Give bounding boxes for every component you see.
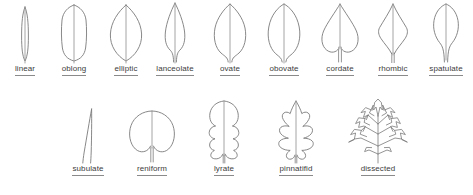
- leaf-item-lyrate: lyrate: [196, 100, 252, 176]
- leaf-item-ovate: ovate: [204, 3, 256, 76]
- leaf-label-oblong: oblong: [62, 64, 87, 76]
- leaf-item-cordate: cordate: [312, 3, 368, 76]
- leaf-label-linear: linear: [15, 64, 35, 76]
- leaf-label-lanceolate: lanceolate: [156, 64, 193, 76]
- leaf-item-subulate: subulate: [62, 108, 114, 176]
- leaf-shape-linear-icon: [15, 6, 35, 64]
- leaf-shape-elliptic-icon: [107, 4, 145, 64]
- leaf-label-rhombic: rhombic: [378, 64, 407, 76]
- leaf-shape-dissected-icon: [342, 98, 414, 164]
- leaf-label-pinnatifid: pinnatifid: [279, 164, 312, 176]
- leaf-item-reniform: reniform: [122, 108, 182, 176]
- leaf-shape-oblong-icon: [57, 4, 91, 64]
- leaf-label-lyrate: lyrate: [214, 164, 234, 176]
- leaf-shape-reniform-icon: [128, 108, 176, 164]
- leaf-shape-rhombic-icon: [376, 3, 410, 64]
- leaf-label-dissected: dissected: [361, 164, 396, 176]
- leaf-shape-pinnatifid-icon: [275, 100, 317, 164]
- leaf-item-pinnatifid: pinnatifid: [266, 100, 326, 176]
- leaf-label-cordate: cordate: [326, 64, 353, 76]
- leaf-label-subulate: subulate: [72, 164, 103, 176]
- leaf-item-lanceolate: lanceolate: [146, 2, 204, 76]
- leaf-shape-lanceolate-icon: [159, 2, 191, 64]
- leaf-label-ovate: ovate: [220, 64, 240, 76]
- leaf-shape-cordate-icon: [319, 3, 361, 64]
- leaf-shape-subulate-icon: [78, 108, 98, 164]
- leaf-label-obovate: obovate: [269, 64, 298, 76]
- leaf-item-obovate: obovate: [256, 3, 312, 76]
- leaf-item-elliptic: elliptic: [100, 4, 152, 76]
- leaf-item-linear: linear: [2, 6, 48, 76]
- leaf-shape-lyrate-icon: [205, 100, 243, 164]
- leaf-label-reniform: reniform: [137, 164, 167, 176]
- leaf-shape-figure: linear oblong elliptic lanceolat: [0, 0, 473, 195]
- leaf-label-spatulate: spatulate: [429, 64, 462, 76]
- leaf-shape-ovate-icon: [211, 3, 249, 64]
- leaf-item-rhombic: rhombic: [368, 3, 418, 76]
- leaf-label-elliptic: elliptic: [114, 64, 137, 76]
- leaf-shape-obovate-icon: [265, 3, 303, 64]
- leaf-item-spatulate: spatulate: [420, 3, 472, 76]
- leaf-item-dissected: dissected: [340, 98, 416, 176]
- leaf-item-oblong: oblong: [48, 4, 100, 76]
- leaf-shape-spatulate-icon: [430, 3, 462, 64]
